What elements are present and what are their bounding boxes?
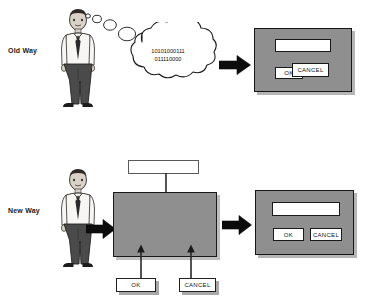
cloud-binary-line-1: 10101000111	[116, 47, 220, 55]
new-way-dialog-textbox[interactable]	[272, 202, 340, 216]
new-way-dialog-cancel-button[interactable]: CANCEL	[310, 228, 342, 241]
drop-arrow-cancel-icon	[186, 244, 196, 282]
cloud-binary-line-2: 011110000	[116, 55, 220, 63]
old-way-row-label: Old Way	[8, 47, 37, 54]
drop-arrow-ok-icon	[136, 244, 146, 282]
old-way-dialog[interactable]: OK CANCEL	[254, 28, 352, 92]
palette-ok-button[interactable]: OK	[116, 278, 156, 292]
new-way-row-label: New Way	[8, 207, 40, 214]
new-way-flow-arrow-left-icon	[86, 219, 116, 243]
old-way-dialog-cancel-button[interactable]: CANCEL	[292, 63, 329, 77]
old-way-flow-arrow-icon	[219, 55, 251, 79]
old-way-dialog-textbox[interactable]	[275, 39, 331, 52]
diagram-canvas: Old Way	[0, 0, 378, 302]
new-way-flow-arrow-right-icon	[222, 215, 252, 239]
palette-cancel-button[interactable]: CANCEL	[179, 278, 216, 292]
palette-textbox-widget[interactable]	[128, 160, 199, 174]
new-way-dialog[interactable]: OK CANCEL	[255, 190, 354, 255]
form-designer-canvas[interactable]	[113, 192, 217, 257]
thought-cloud: 10101000111 011110000	[116, 22, 220, 84]
new-way-dialog-ok-button[interactable]: OK	[273, 228, 304, 241]
